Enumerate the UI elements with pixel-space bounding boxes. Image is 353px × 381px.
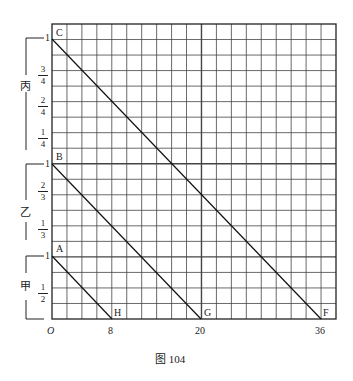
bing-one-label: 1	[45, 33, 50, 43]
jia-one-label: 1	[45, 251, 50, 261]
fraction-2-4: 24	[38, 96, 48, 117]
fraction-3-4: 34	[38, 65, 48, 86]
origin-label: O	[47, 326, 54, 336]
fraction-1-3: 13	[38, 219, 48, 240]
point-A-label: A	[56, 244, 63, 254]
x-tick-36: 36	[315, 326, 325, 336]
fraction-2-3: 23	[38, 181, 48, 202]
x-tick-8: 8	[108, 326, 113, 336]
point-H-label: H	[114, 308, 121, 318]
x-tick-20: 20	[195, 326, 205, 336]
grid-border	[52, 24, 336, 319]
grid-chart	[0, 0, 353, 381]
fraction-1-2: 12	[38, 283, 48, 304]
point-C-label: C	[56, 28, 63, 38]
group-jia-label: 甲	[20, 277, 31, 293]
point-B-label: B	[56, 152, 63, 162]
bracket-jia-top	[26, 256, 44, 273]
figure-caption: 图 104	[155, 350, 185, 366]
diagram: C B A H G F 1 1 1 34 24 14 23 13 12 丙 乙 …	[0, 0, 353, 381]
point-G-label: G	[204, 308, 211, 318]
group-yi-label: 乙	[20, 203, 31, 219]
group-bing-label: 丙	[20, 77, 31, 93]
point-F-label: F	[323, 308, 329, 318]
yi-one-label: 1	[45, 159, 50, 169]
fraction-1-4: 14	[38, 128, 48, 149]
